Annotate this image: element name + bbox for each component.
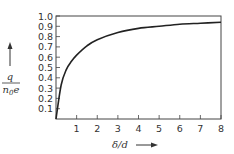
x-axis-ticks: 12345678 bbox=[74, 115, 224, 134]
y-axis-label: q n0e bbox=[2, 42, 20, 97]
y-label-numerator: q bbox=[7, 71, 13, 82]
x-tick-label: 1 bbox=[74, 123, 80, 134]
x-tick-label: 6 bbox=[177, 123, 183, 134]
x-tick-label: 3 bbox=[115, 123, 121, 134]
y-tick-label: 0.8 bbox=[38, 31, 53, 42]
plot-frame bbox=[56, 16, 221, 119]
x-axis-label: δ/d bbox=[112, 139, 158, 150]
y-tick-label: 0.6 bbox=[38, 52, 53, 63]
y-label-denominator: n0e bbox=[3, 84, 20, 97]
y-tick-label: 1.0 bbox=[38, 11, 53, 22]
y-tick-label: 0.9 bbox=[38, 21, 53, 32]
y-tick-label: 0.7 bbox=[38, 41, 53, 52]
data-curve bbox=[56, 22, 221, 119]
y-tick-label: 0.5 bbox=[38, 62, 53, 73]
y-tick-label: 0.4 bbox=[38, 72, 53, 83]
x-tick-label: 4 bbox=[135, 123, 141, 134]
chart: 0.10.20.30.40.50.60.70.80.91.0 12345678 … bbox=[0, 0, 234, 154]
x-tick-label: 8 bbox=[218, 123, 224, 134]
x-tick-label: 5 bbox=[156, 123, 162, 134]
y-tick-label: 0.3 bbox=[38, 83, 53, 94]
y-axis-ticks: 0.10.20.30.40.50.60.70.80.91.0 bbox=[38, 11, 60, 115]
x-tick-label: 7 bbox=[197, 123, 203, 134]
arrow-head-icon bbox=[151, 143, 158, 148]
x-tick-label: 2 bbox=[94, 123, 100, 134]
y-tick-label: 0.1 bbox=[38, 103, 53, 114]
y-tick-label: 0.2 bbox=[38, 93, 53, 104]
x-label: δ/d bbox=[112, 139, 128, 150]
arrow-head-icon bbox=[8, 42, 13, 49]
